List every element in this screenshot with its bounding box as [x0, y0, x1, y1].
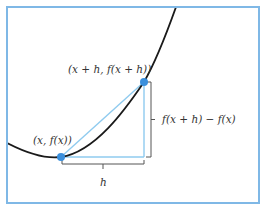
point-xh-fxh — [140, 78, 148, 86]
label-run: h — [100, 176, 107, 188]
point-x-fx — [57, 153, 65, 161]
label-point-x-fx: (x, f(x)) — [33, 134, 72, 146]
label-point-xh-fxh: (x + h, f(x + h)) — [68, 63, 151, 75]
diagram-frame: (x + h, f(x + h)) (x, f(x)) f(x + h) − f… — [0, 0, 263, 209]
frame-border — [7, 7, 259, 203]
difference-quotient-diagram: (x + h, f(x + h)) (x, f(x)) f(x + h) − f… — [0, 0, 263, 209]
label-rise: f(x + h) − f(x) — [161, 113, 236, 125]
